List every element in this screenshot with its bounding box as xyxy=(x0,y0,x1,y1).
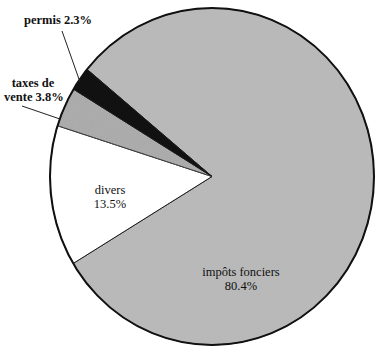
label-permis: permis 2.3% xyxy=(24,14,92,27)
label-taxes-line2: vente 3.8% xyxy=(4,91,64,104)
label-divers-name: divers xyxy=(88,184,132,197)
pie-chart xyxy=(0,0,378,351)
taxes-leader-line xyxy=(22,106,60,119)
label-impots-value: 80.4% xyxy=(186,280,296,293)
label-taxes-line1: taxes de xyxy=(10,77,56,90)
label-divers-value: 13.5% xyxy=(88,198,132,211)
label-impots-name: impôts fonciers xyxy=(186,266,296,279)
pie-slices xyxy=(50,8,374,345)
permis-leader-line xyxy=(62,31,80,82)
